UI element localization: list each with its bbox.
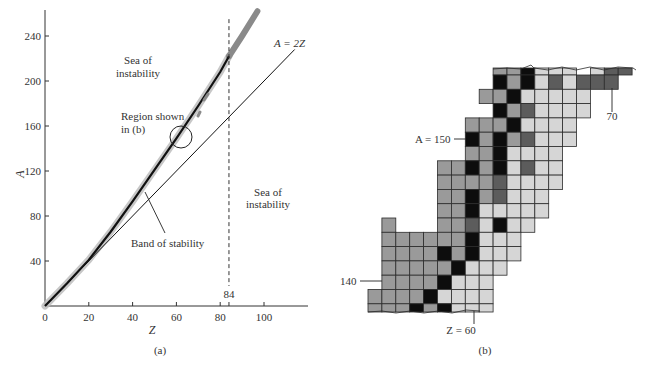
dashed-line-label: 84	[224, 288, 236, 300]
nuclide-cell	[410, 247, 424, 261]
nuclide-cell	[507, 75, 521, 89]
panel-b-caption: (b)	[479, 344, 492, 357]
a-equals-2z-line	[45, 50, 295, 307]
nuclide-cell	[396, 247, 410, 261]
nuclide-cell	[382, 232, 396, 246]
nuclide-cell	[521, 161, 535, 175]
nuclide-cell	[479, 232, 493, 246]
nuclide-cell	[604, 68, 618, 75]
nuclide-cell	[451, 232, 465, 246]
x-tick-label: 20	[83, 311, 95, 323]
nuclide-cell	[438, 161, 452, 175]
nuclide-cell	[535, 189, 549, 203]
nuclide-cell	[493, 75, 507, 89]
y-tick-label: 120	[25, 165, 42, 177]
nuclide-cell	[438, 290, 452, 304]
nuclide-cell	[396, 261, 410, 275]
line-2z-label: A = 2Z	[273, 37, 306, 49]
nuclide-cell	[479, 161, 493, 175]
nuclide-cell	[521, 204, 535, 218]
nuclide-cell	[451, 175, 465, 189]
x-ticks: 020406080100	[42, 302, 273, 323]
nuclide-cell	[438, 175, 452, 189]
y-tick-label: 40	[30, 255, 42, 267]
nuclide-cell	[451, 161, 465, 175]
nuclide-cell	[493, 189, 507, 203]
nuclide-cell	[507, 218, 521, 232]
nuclide-cell	[535, 204, 549, 218]
nuclide-cell	[563, 75, 577, 89]
nuclide-cell	[410, 275, 424, 289]
nuclide-cell	[479, 218, 493, 232]
nuclide-cell	[451, 218, 465, 232]
nuclide-cell	[549, 132, 563, 146]
x-tick-label: 60	[171, 311, 183, 323]
x-tick-label: 80	[215, 311, 227, 323]
n70-label: 70	[607, 110, 619, 122]
y-tick-label: 200	[25, 75, 42, 87]
nuclide-cell	[424, 275, 438, 289]
y-axis-title: A	[13, 170, 27, 179]
panel-a-caption: (a)	[154, 344, 167, 357]
nuclide-cell	[493, 161, 507, 175]
nuclide-cell	[451, 290, 465, 304]
nuclide-cell	[396, 290, 410, 304]
x-tick-label: 100	[256, 311, 273, 323]
nuclide-cell	[535, 75, 549, 89]
nuclide-cell	[493, 218, 507, 232]
nuclide-cell	[549, 147, 563, 161]
nuclide-cell	[521, 175, 535, 189]
nuclide-cell	[577, 104, 591, 118]
region-label-line2: in (b)	[121, 123, 145, 136]
nuclide-cell	[521, 189, 535, 203]
nuclide-cell	[507, 132, 521, 146]
nuclide-cell	[451, 247, 465, 261]
band-of-stability-halo	[45, 56, 229, 306]
nuclide-cell	[396, 304, 410, 312]
nuclide-cell	[479, 304, 493, 312]
nuclide-cell	[410, 261, 424, 275]
nuclide-cell	[507, 204, 521, 218]
sea-lower-label-line1: Sea of	[254, 186, 282, 198]
sea-lower-label-line2: instability	[246, 198, 291, 210]
nuclide-cell	[563, 132, 577, 146]
nuclide-cell	[535, 89, 549, 103]
nuclide-cell	[438, 247, 452, 261]
n140-label: 140	[340, 275, 357, 287]
nuclide-cell	[465, 275, 479, 289]
nuclide-cell	[549, 161, 563, 175]
nuclide-cell	[479, 275, 493, 289]
nuclide-cell	[590, 68, 604, 75]
nuclide-cell	[424, 261, 438, 275]
nuclide-cell	[424, 304, 438, 312]
nuclide-cell	[438, 304, 452, 312]
nuclide-cell	[535, 147, 549, 161]
band-of-stability-tail	[229, 11, 257, 56]
nuclide-cell	[521, 118, 535, 132]
nuclide-cell	[535, 132, 549, 146]
nuclide-cell	[479, 175, 493, 189]
nuclide-cell	[396, 275, 410, 289]
nuclide-cell	[479, 261, 493, 275]
nuclide-cell	[507, 247, 521, 261]
nuclide-cell	[549, 175, 563, 189]
nuclide-cell	[493, 104, 507, 118]
nuclide-cell	[507, 147, 521, 161]
nuclide-cell	[507, 189, 521, 203]
nuclide-cell	[493, 89, 507, 103]
nuclide-cell	[438, 189, 452, 203]
nuclide-cell	[479, 132, 493, 146]
nuclide-cell	[521, 104, 535, 118]
nuclide-cell	[451, 189, 465, 203]
nuclide-cell	[465, 204, 479, 218]
nuclide-cell	[424, 247, 438, 261]
nuclide-cell	[493, 261, 507, 275]
nuclide-cell	[465, 218, 479, 232]
nuclide-cell	[493, 147, 507, 161]
nuclide-cell	[563, 89, 577, 103]
nuclide-cell	[465, 290, 479, 304]
nuclide-cell	[577, 75, 591, 89]
nuclide-cell	[479, 118, 493, 132]
nuclide-cell	[535, 175, 549, 189]
nuclide-cell	[521, 132, 535, 146]
